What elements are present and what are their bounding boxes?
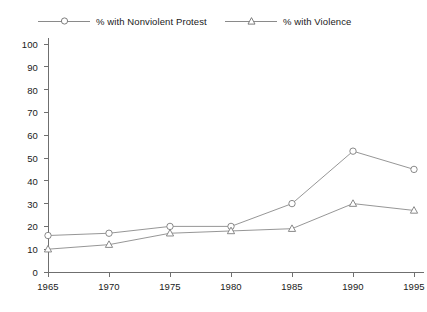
- plot-canvas: [0, 0, 427, 312]
- y-axis-tick-label: 80: [8, 84, 38, 95]
- x-axis-tick-label: 1975: [148, 281, 192, 292]
- y-axis-tick-label: 40: [8, 175, 38, 186]
- x-axis-tick-label: 1980: [209, 281, 253, 292]
- x-axis-tick-label: 1995: [392, 281, 427, 292]
- chart-container: % with Nonviolent Protest % with Violenc…: [0, 0, 427, 312]
- data-point-triangle: [288, 225, 295, 232]
- x-axis-tick-label: 1965: [26, 281, 70, 292]
- data-point-circle: [411, 166, 417, 172]
- plot-area: 0102030405060708090100 19651970197519801…: [0, 0, 427, 312]
- axes: [44, 38, 424, 277]
- y-axis-tick-label: 50: [8, 153, 38, 164]
- data-point-circle: [350, 148, 356, 154]
- y-axis-tick-label: 100: [8, 39, 38, 50]
- y-axis-tick-label: 90: [8, 61, 38, 72]
- data-point-circle: [106, 230, 112, 236]
- series-nonviolent-protest: [45, 148, 417, 239]
- x-axis-tick-label: 1985: [270, 281, 314, 292]
- caption-fragment: [140, 300, 427, 312]
- x-axis-tick-label: 1970: [87, 281, 131, 292]
- y-axis-tick-label: 60: [8, 130, 38, 141]
- data-series: [44, 148, 417, 252]
- y-axis-tick-label: 20: [8, 221, 38, 232]
- y-axis-tick-label: 0: [8, 267, 38, 278]
- data-point-circle: [45, 232, 51, 238]
- data-point-triangle: [349, 200, 356, 207]
- y-axis-tick-label: 10: [8, 244, 38, 255]
- x-axis-tick-label: 1990: [331, 281, 375, 292]
- y-axis-tick-label: 70: [8, 107, 38, 118]
- y-axis-tick-label: 30: [8, 198, 38, 209]
- data-point-circle: [289, 200, 295, 206]
